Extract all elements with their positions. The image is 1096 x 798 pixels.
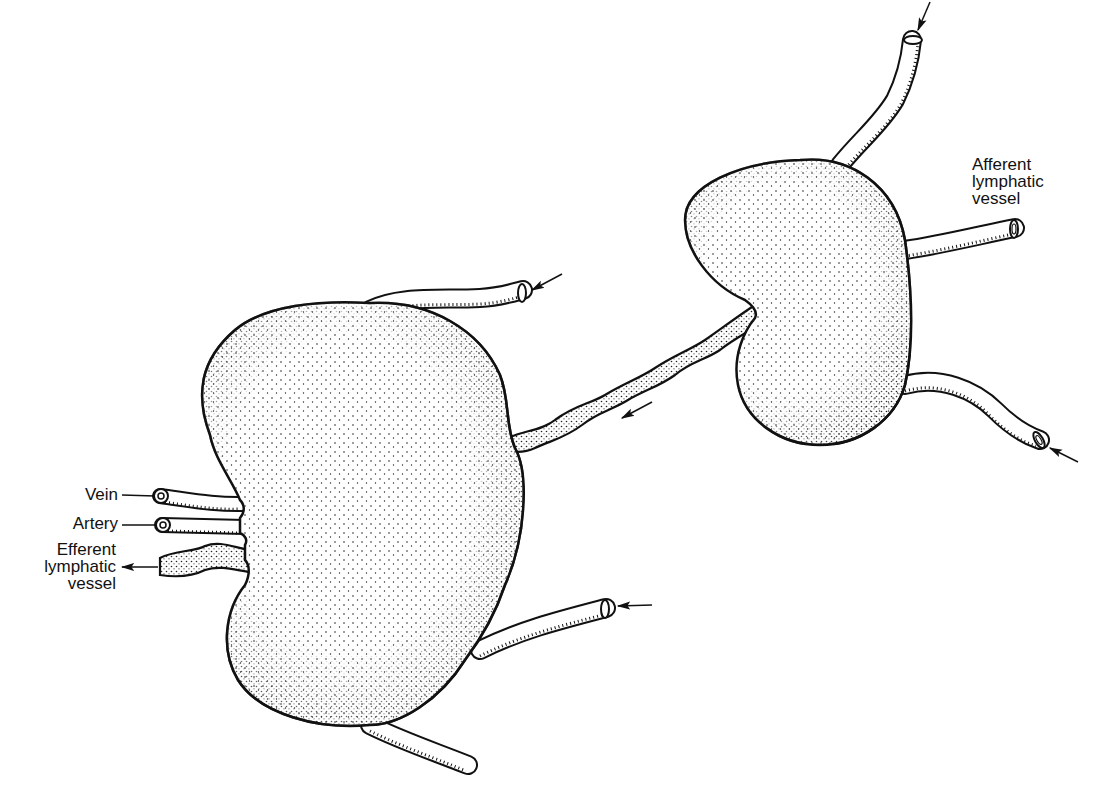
large-lymph-node [202, 302, 524, 726]
arrow-upper-vessel-large [532, 274, 562, 290]
arrow-lower-vessel-large [618, 605, 652, 606]
efferent-lymphatic-vessel [160, 544, 250, 576]
arrow-lower-right-vessel [1050, 448, 1078, 462]
label-afferent-line3: vessel [972, 190, 1020, 207]
vein-leader-line [122, 495, 155, 496]
label-artery: Artery [60, 515, 118, 532]
arrow-connecting-vessel [622, 402, 652, 418]
label-efferent-line1: Efferent [40, 541, 116, 558]
small-lymph-node [685, 159, 911, 445]
label-afferent-line2: lymphatic [972, 173, 1044, 190]
arrow-top-right-vessel [918, 2, 930, 30]
right-afferent-vessel-small [905, 220, 1018, 256]
connecting-lymphatic-vessel [505, 305, 760, 452]
vein-vessel [154, 489, 245, 509]
label-vein: Vein [72, 486, 118, 503]
lymph-node-diagram [0, 0, 1096, 798]
bottom-vessel-large [370, 725, 468, 771]
top-afferent-vessel-small [840, 36, 922, 168]
label-afferent-line1: Afferent [972, 156, 1031, 173]
lower-afferent-vessel-small [905, 382, 1047, 450]
lower-afferent-vessel-large [480, 600, 609, 656]
artery-vessel [156, 518, 245, 533]
label-efferent-line3: vessel [40, 575, 116, 592]
label-efferent-line2: lymphatic [30, 558, 116, 575]
